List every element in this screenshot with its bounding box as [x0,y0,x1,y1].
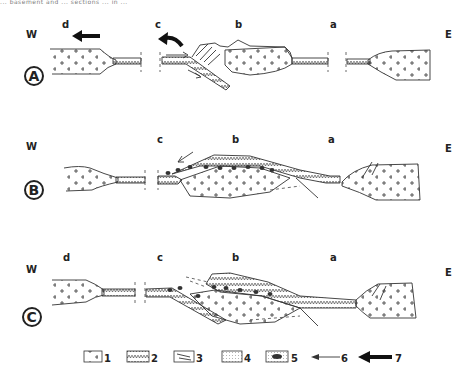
zone-label-c: c [157,252,163,263]
continental-crust-a [356,283,416,318]
zone-label-a: a [330,19,337,30]
east-label-a: E [445,29,452,40]
zone-label-b: b [232,134,239,145]
west-label-c: W [26,264,37,275]
continental-crust-d [64,167,118,192]
continental-crust-b [225,47,292,75]
west-label-b: W [26,141,37,152]
oceanic-crust-a [347,59,370,64]
zone-label-a: a [330,252,337,263]
zone-label-b: b [232,252,239,263]
legend-label-2: 2 [151,353,158,364]
thrust-slices [186,277,208,287]
legend-label-7: 7 [395,353,402,364]
curved-thick-arrow-icon [165,38,182,46]
legend-swatch-1 [84,351,102,362]
legend-label-1: 1 [104,353,111,364]
fault-line [300,308,318,326]
legend-label-4: 4 [244,353,251,364]
continental-crust-a [342,164,420,200]
oceanic-crust-d [116,177,145,183]
zone-label-c: c [155,19,161,30]
thin-arrow-head-icon [311,354,319,360]
continental-crust-a [368,50,430,80]
zone-label-b: b [235,19,242,30]
oceanic-crust-b [292,58,328,64]
zone-label-d: d [63,252,70,263]
west-label-a: W [26,29,37,40]
thin-arrow-icon [178,152,193,162]
legend-swatch-4 [222,351,242,362]
legend: 1 2 3 4 5 6 7 [84,351,402,364]
oceanic-crust-c [158,176,182,184]
thrust-slices [196,44,220,65]
east-label-b: E [445,143,452,154]
legend-label-5: 5 [291,353,298,364]
legend-label-3: 3 [196,353,203,364]
panel-id-a: A [29,68,40,84]
panel-id-b: B [29,182,40,198]
panel-id-c: C [27,309,37,325]
curved-arrow-head-icon [158,32,168,45]
legend-swatch-3 [174,351,194,362]
continental-crust-d [50,49,116,74]
zone-label-d: d [62,19,69,30]
zone-label-c: c [157,134,163,145]
panel-a: W E d c b a A [25,19,452,90]
east-label-c: E [445,267,452,278]
legend-swatch-2 [127,351,149,362]
thick-arrow-head-icon [358,351,370,363]
continental-crust-d [52,280,104,305]
thick-arrow-head-icon [72,30,82,42]
zone-label-a: a [328,134,335,145]
panel-c: W E d c b a C [23,252,452,326]
ophiolite-block-icon [272,354,282,359]
oceanic-crust-d [113,58,141,64]
oceanic-crust-d [102,289,135,296]
cross-section-diagram: W E d c b a A W E c b [0,0,471,389]
panel-b: W E c b a B [25,134,452,200]
legend-label-6: 6 [341,353,348,364]
